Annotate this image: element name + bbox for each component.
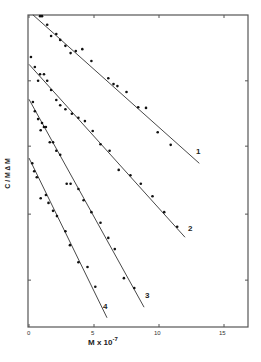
series-label-2: 2 (188, 224, 192, 233)
data-point-series-2 (59, 104, 62, 107)
data-point-series-1 (145, 107, 148, 110)
data-point-series-1 (81, 48, 84, 51)
fit-line-series-1 (33, 15, 199, 164)
data-point-series-1 (69, 52, 72, 55)
data-point-series-1 (46, 23, 49, 26)
data-point-series-1 (169, 144, 172, 147)
data-point-series-4 (86, 266, 89, 269)
data-point-series-2 (77, 116, 80, 119)
data-point-series-2 (151, 195, 154, 198)
data-point-series-4 (47, 202, 50, 205)
data-point-series-2 (140, 182, 143, 185)
data-point-series-2 (55, 99, 58, 102)
data-point-series-3 (32, 101, 35, 104)
data-point-series-3 (82, 199, 85, 202)
x-tick-10: 10 (154, 330, 161, 336)
data-point-series-1 (156, 131, 159, 134)
data-point-series-3 (59, 153, 62, 156)
x-axis-label-main: M x 10 (88, 338, 112, 347)
data-point-series-1 (50, 35, 53, 38)
chart-plot-area (0, 0, 261, 362)
data-point-series-2 (64, 108, 67, 111)
data-point-series-4 (36, 176, 39, 179)
data-point-series-4 (39, 197, 42, 200)
data-point-series-2 (99, 143, 102, 146)
data-point-series-3 (65, 182, 68, 185)
data-point-series-2 (117, 169, 120, 172)
data-point-series-3 (114, 248, 117, 251)
data-point-series-1 (90, 60, 93, 63)
data-point-series-2 (46, 80, 49, 83)
data-point-series-2 (34, 66, 37, 69)
data-point-series-1 (137, 106, 140, 109)
data-point-series-1 (116, 85, 119, 88)
data-point-series-3 (69, 182, 72, 185)
data-point-series-3 (41, 122, 44, 125)
data-point-series-3 (133, 287, 136, 290)
data-point-series-4 (64, 230, 67, 233)
data-point-series-2 (50, 89, 53, 92)
data-point-series-3 (45, 126, 48, 129)
data-point-series-1 (125, 91, 128, 94)
data-point-series-2 (91, 130, 94, 133)
data-point-series-3 (55, 149, 58, 152)
plot-frame (28, 15, 248, 327)
data-point-series-3 (99, 221, 102, 224)
data-point-series-3 (77, 188, 80, 191)
fit-line-series-4 (29, 158, 107, 318)
data-point-series-1 (64, 45, 67, 48)
data-point-series-2 (30, 56, 33, 59)
x-tick-0: 0 (27, 330, 30, 336)
data-point-series-2 (84, 120, 87, 123)
data-point-series-4 (33, 170, 36, 173)
data-point-series-4 (45, 194, 48, 197)
series-label-4: 4 (103, 302, 107, 311)
data-point-series-3 (90, 211, 93, 214)
data-point-series-4 (56, 215, 59, 218)
x-axis-label-exponent: -7 (112, 336, 117, 342)
data-point-series-2 (176, 225, 179, 228)
data-point-series-2 (129, 174, 132, 177)
data-point-series-3 (37, 118, 40, 121)
x-tick-15: 15 (219, 330, 226, 336)
series-label-1: 1 (196, 147, 200, 156)
data-point-series-2 (71, 113, 74, 116)
data-point-series-3 (39, 129, 42, 132)
data-point-series-1 (112, 83, 115, 86)
data-point-series-3 (107, 237, 110, 240)
data-point-series-3 (123, 277, 126, 280)
data-point-series-1 (41, 15, 44, 18)
data-point-series-4 (52, 210, 55, 213)
data-point-series-4 (77, 261, 80, 264)
data-point-series-4 (31, 162, 34, 165)
data-point-series-3 (52, 141, 55, 144)
data-point-series-1 (55, 33, 58, 36)
data-point-series-3 (34, 110, 37, 113)
data-point-series-4 (69, 244, 72, 247)
data-point-series-2 (37, 80, 40, 83)
data-point-series-3 (49, 141, 52, 144)
y-axis-label: C / M ∆ M (4, 158, 11, 189)
data-point-series-2 (43, 73, 46, 76)
data-point-series-2 (163, 211, 166, 214)
data-point-series-2 (108, 149, 111, 152)
data-point-series-1 (75, 50, 78, 53)
data-point-series-1 (107, 77, 110, 80)
data-point-series-4 (94, 285, 97, 288)
data-point-series-1 (59, 39, 62, 42)
x-axis-label: M x 10-7 (88, 336, 118, 347)
data-point-series-2 (39, 73, 42, 76)
series-label-3: 3 (145, 291, 149, 300)
